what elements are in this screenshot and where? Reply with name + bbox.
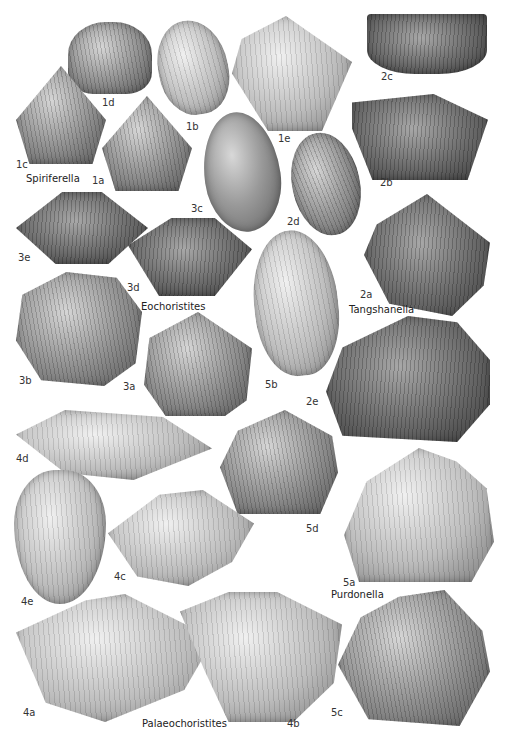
figure-label-2a: 2a [360,290,373,300]
figure-label-4b: 4b [287,719,300,729]
figure-label-1c: 1c [16,160,28,170]
specimen-4c [108,490,254,586]
specimen-2c [367,14,487,74]
figure-label-2b: 2b [380,178,393,188]
specimen-2b [352,94,488,180]
specimen-4e [14,470,106,604]
specimen-1e [232,16,352,131]
figure-label-2c: 2c [381,72,393,82]
specimen-3d [128,218,252,296]
figure-label-3d: 3d [127,283,140,293]
specimen-5a [344,448,494,582]
specimen-3b [16,272,142,386]
specimen-5b [247,226,346,380]
figure-label-5d: 5d [306,524,319,534]
figure-label-5c: 5c [331,708,343,718]
specimen-1b [150,15,235,121]
specimen-2e [220,410,338,514]
genus-label-tangshanella: Tangshanella [349,305,414,315]
figure-label-4e: 4e [21,597,34,607]
figure-label-1e: 1e [278,134,291,144]
figure-label-4c: 4c [114,572,126,582]
figure-label-1b: 1b [186,122,199,132]
figure-label-3b: 3b [19,376,32,386]
specimen-5c [338,590,490,726]
genus-label-purdonella: Purdonella [331,590,384,600]
genus-label-palaeochoristites: Palaeochoristites [142,719,227,729]
figure-label-1a: 1a [92,176,105,186]
specimen-3a [144,312,252,416]
specimen-1a [102,96,192,191]
specimen-3e [16,192,148,264]
figure-label-2d: 2d [287,217,300,227]
specimen-4d [16,410,212,480]
figure-label-3c: 3c [191,204,203,214]
figure-label-3a: 3a [123,382,136,392]
figure-label-5b: 5b [265,380,278,390]
specimen-2a [364,194,490,316]
figure-label-3e: 3e [18,253,31,263]
figure-label-4d: 4d [16,454,29,464]
figure-label-4a: 4a [23,708,36,718]
specimen-1d [68,22,152,94]
figure-label-2e: 2e [306,397,319,407]
figure-label-1d: 1d [102,98,115,108]
genus-label-eochoristites: Eochoristites [141,302,205,312]
fossil-plate: 1d 1b 1e 2c 2b 1c Spiriferella 1a 3c 2d … [0,0,505,741]
specimen-5c-large [326,316,490,442]
specimen-4b [180,592,342,722]
genus-label-spiriferella: Spiriferella [26,174,80,184]
figure-label-5a: 5a [343,578,356,588]
